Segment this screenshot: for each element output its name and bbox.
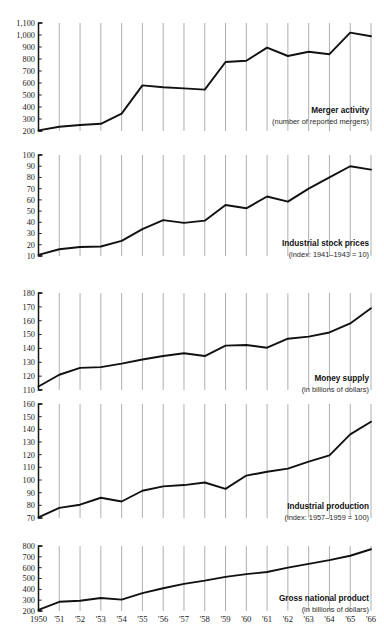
y-axis-spine [39,293,43,390]
y-axis-tick-label: 170 [23,303,35,312]
y-axis-spine [39,23,43,131]
y-axis-tick-label: 140 [23,344,35,353]
x-axis-tick-label: '56 [158,614,169,624]
multi-panel-line-chart: 1,1001,000900800700600500400300200Merger… [0,0,384,635]
y-axis-tick-label: 70 [27,514,35,523]
y-axis-tick-label: 120 [23,372,35,381]
economic-indicators-figure: 1,1001,000900800700600500400300200Merger… [0,0,384,635]
y-axis-tick-label: 50 [27,207,35,216]
y-axis-tick-label: 120 [23,451,35,460]
x-axis-tick-label: '58 [200,614,210,624]
y-axis-tick-label: 160 [23,317,35,326]
y-axis-tick-label: 150 [23,330,35,339]
y-axis-tick-label: 10 [27,252,35,261]
y-axis-tick-label: 130 [23,438,35,447]
x-axis-tick-label: '51 [54,614,64,624]
panel-subtitle: (number of reported mergers) [272,117,369,126]
y-axis-tick-label: 800 [23,55,35,64]
x-axis-tick-label: '54 [117,614,128,624]
panel-title: Gross national product [279,594,369,603]
y-axis-tick-label: 80 [27,173,35,182]
y-axis-tick-label: 700 [23,67,35,76]
y-axis-tick-label: 400 [23,585,35,594]
y-axis-tick-label: 130 [23,358,35,367]
y-axis-tick-label: 180 [23,289,35,298]
panel-title: Merger activity [311,106,369,115]
y-axis-tick-label: 300 [23,596,35,605]
y-axis-tick-label: 60 [27,196,35,205]
chart-panel: 180170160150140130120110Money supply(in … [23,289,371,395]
y-axis-tick-label: 1,100 [16,19,35,28]
y-axis-tick-label: 1,000 [16,31,35,40]
panel-title: Money supply [314,374,369,383]
y-axis-tick-label: 900 [23,43,35,52]
y-axis-tick-label: 600 [23,564,35,573]
panel-subtitle: (index: 1941–1943 = 10) [289,250,369,259]
y-axis-spine [39,404,43,518]
x-axis-tick-label: '63 [304,614,314,624]
panel-title: Industrial production [287,502,369,511]
y-axis-tick-label: 80 [27,501,35,510]
y-axis-tick-label: 100 [23,476,35,485]
y-axis-tick-label: 110 [23,463,35,472]
x-axis-tick-label: '55 [137,614,147,624]
y-axis-tick-label: 20 [27,241,35,250]
x-axis-tick-label: '60 [241,614,251,624]
y-axis-tick-label: 40 [27,218,35,227]
x-axis-tick-label: '61 [262,614,272,624]
x-axis-tick-label: '53 [96,614,106,624]
y-axis-tick-label: 500 [23,574,35,583]
x-axis-tick-label: '57 [179,614,190,624]
y-axis-tick-label: 140 [23,425,35,434]
y-axis-tick-label: 150 [23,413,35,422]
y-axis-tick-label: 100 [23,151,35,160]
y-axis-tick-label: 800 [23,542,35,551]
x-axis-tick-label: 1950 [30,614,47,624]
panel-subtitle: (in billions of dollars) [302,385,369,394]
y-axis-tick-label: 300 [23,115,35,124]
y-axis-tick-label: 110 [23,386,35,395]
x-axis-tick-label: '64 [324,614,335,624]
chart-panel: 100908070605040302010Industrial stock pr… [23,151,371,261]
x-axis-tick-label: '65 [345,614,355,624]
chart-panel: 1,1001,000900800700600500400300200Merger… [16,19,371,136]
y-axis-tick-label: 90 [27,489,35,498]
y-axis-tick-label: 200 [23,127,35,136]
y-axis-tick-label: 600 [23,79,35,88]
y-axis-tick-label: 70 [27,185,35,194]
y-axis-tick-label: 500 [23,91,35,100]
x-axis-tick-label: '59 [220,614,230,624]
panel-title: Industrial stock prices [282,239,369,248]
y-axis-tick-label: 30 [27,229,35,238]
chart-panel: 160150140130120110100908070Industrial pr… [23,400,371,523]
x-axis: 1950'51'52'53'54'55'56'57'58'59'60'61'62… [30,614,377,624]
y-axis-tick-label: 700 [23,553,35,562]
x-axis-tick-label: '62 [283,614,293,624]
panel-subtitle: (index: 1957–1959 = 100) [285,513,369,522]
y-axis-spine [39,155,43,256]
x-axis-tick-label: '66 [366,614,377,624]
x-axis-tick-label: '52 [75,614,85,624]
y-axis-tick-label: 90 [27,162,35,171]
chart-panel: 800700600500400300200Gross national prod… [23,542,371,616]
y-axis-tick-label: 400 [23,103,35,112]
y-axis-tick-label: 160 [23,400,35,409]
panel-subtitle: (in billions of dollars) [302,605,369,614]
